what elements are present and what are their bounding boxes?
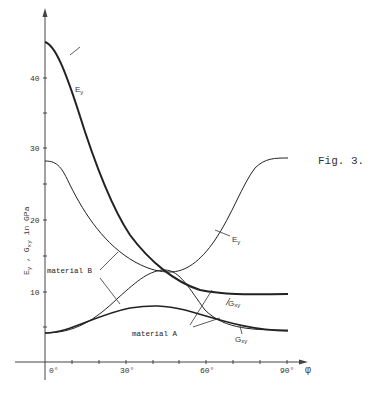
label-gxy-material-b: Gxy [228,299,240,308]
chart-figure: 10 20 30 40 0° 30° 60° 90° φ Ey , Gxy in… [0,0,381,404]
leader-material-a-upper [190,290,212,325]
leader-ey-thin [215,230,230,236]
label-material-b: material B [47,267,93,275]
label-material-a: material A [132,330,178,338]
label-ey-thick: Ey [75,85,83,95]
y-axis-arrow-icon [43,8,48,17]
x-axis-title: φ [305,365,311,376]
x-axis-arrow-icon [299,360,308,365]
y-tick-label-40: 40 [30,74,40,83]
y-axis [43,8,48,380]
x-tick-label-60: 60° [200,366,214,375]
x-axis [15,360,308,365]
y-tick-label-10: 10 [30,288,40,297]
leader-material-a-lower [193,318,220,327]
label-gxy-material-a: Gxy [235,335,247,344]
curve-ey-thin [45,158,288,272]
x-tick-label-90: 90° [280,366,294,375]
figure-label: Fig. 3. [318,155,364,167]
y-tick-label-20: 20 [30,216,40,225]
x-tick-label-30: 30° [120,366,134,375]
curve-ey-thick [45,42,288,294]
leader-ey-thick [70,47,80,55]
x-tick-label-0: 0° [49,366,59,375]
label-ey-thin: Ey [232,235,240,245]
leader-material-b-lower [100,278,120,304]
leader-material-b-upper [100,252,118,270]
y-tick-label-30: 30 [30,144,40,153]
